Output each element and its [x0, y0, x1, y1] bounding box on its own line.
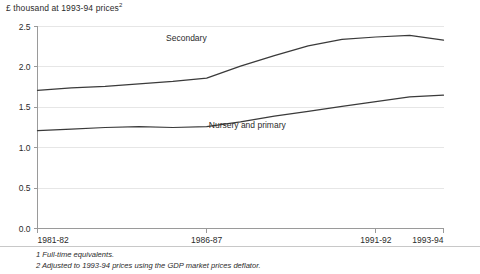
- y-axis-unit-label: £ thousand at 1993-94 prices2: [6, 3, 122, 14]
- series-line-1: [38, 35, 444, 90]
- y-tick-label: 0.5: [19, 183, 31, 193]
- plot-area: 0.00.51.01.52.02.5 SecondaryNursery and …: [0, 16, 480, 244]
- chart-figure: £ thousand at 1993-94 prices2 0.00.51.01…: [0, 0, 480, 274]
- footnote-marker-2: 2: [119, 2, 122, 8]
- y-axis: 0.00.51.01.52.02.5: [19, 22, 38, 234]
- series-label-2: Nursery and primary: [209, 120, 287, 130]
- footnote-2: 2 Adjusted to 1993-94 prices using the G…: [36, 261, 466, 272]
- x-tick-label: 1991-92: [360, 235, 391, 245]
- gridlines: [38, 27, 444, 189]
- x-tick-label: 1986-87: [191, 235, 222, 245]
- y-tick-label: 0.0: [19, 224, 31, 234]
- line-chart: 0.00.51.01.52.02.5 SecondaryNursery and …: [0, 16, 480, 244]
- y-tick-label: 1.0: [19, 143, 31, 153]
- y-tick-label: 1.5: [19, 102, 31, 112]
- x-tick-label: 1981-82: [38, 235, 69, 245]
- footnotes: 1 Full-time equivalents. 2 Adjusted to 1…: [36, 250, 466, 271]
- x-tick-label: 1993-94: [412, 235, 443, 245]
- y-axis-unit-text: £ thousand at 1993-94 prices: [6, 3, 119, 13]
- y-tick-label: 2.5: [19, 22, 31, 32]
- footnote-1: 1 Full-time equivalents.: [36, 250, 466, 261]
- x-tick-labels: 1981-821986-871991-921993-94: [38, 235, 444, 245]
- series-lines: [38, 35, 444, 130]
- series-labels: SecondaryNursery and primary: [166, 33, 286, 130]
- y-tick-label: 2.0: [19, 62, 31, 72]
- footnote-divider: [0, 246, 480, 247]
- series-label-1: Secondary: [166, 33, 207, 43]
- x-axis: [38, 229, 444, 233]
